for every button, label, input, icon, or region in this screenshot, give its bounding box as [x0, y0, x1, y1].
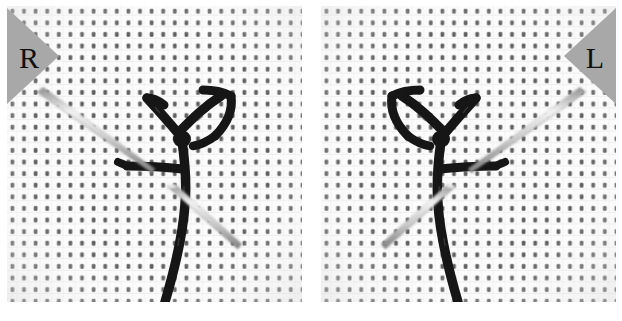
panel-left-R: R — [7, 6, 302, 302]
panel-label-text: R — [19, 41, 39, 74]
panel-left-image: R — [7, 6, 302, 302]
panel-right-image: L — [321, 6, 616, 302]
panel-right-L: L — [321, 6, 616, 302]
panel-label-text: L — [586, 41, 604, 74]
figure-container: R — [0, 0, 622, 321]
